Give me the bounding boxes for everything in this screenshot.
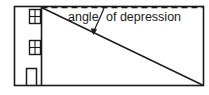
- of-depression-label: of depression: [106, 11, 181, 24]
- angle-of-depression-figure: angle of depression: [0, 0, 209, 95]
- angle-label: angle: [68, 11, 99, 24]
- door: [27, 69, 37, 86]
